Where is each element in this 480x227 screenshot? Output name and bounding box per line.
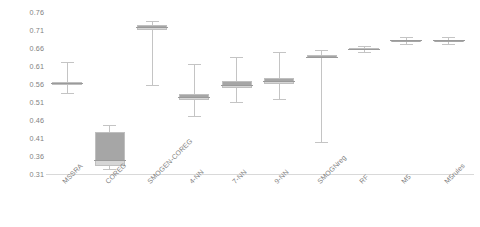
x-axis-tick-label: SMOGEN-COREG xyxy=(146,137,194,185)
x-axis-tick-label: 4-NN xyxy=(188,168,205,185)
x-axis-tick-label: RF xyxy=(358,173,370,185)
x-axis-tick-label: COREG xyxy=(104,161,127,184)
x-axis-tick-label: SMOGNreg xyxy=(316,154,347,185)
x-axis-tick-label: MSSRA xyxy=(61,162,84,185)
x-axis-tick-label: M5 xyxy=(400,173,412,185)
x-axis: MSSRACOREGSMOGEN-COREG4-NN7-NN9-NNSMOGNr… xyxy=(0,0,480,227)
x-axis-tick-label: 9-NN xyxy=(273,168,290,185)
x-axis-tick-label: 7-NN xyxy=(231,168,248,185)
boxplot-chart: 0.760.710.660.610.560.510.460.410.360.31… xyxy=(0,0,480,227)
x-axis-tick-label: M5rules xyxy=(443,162,466,185)
